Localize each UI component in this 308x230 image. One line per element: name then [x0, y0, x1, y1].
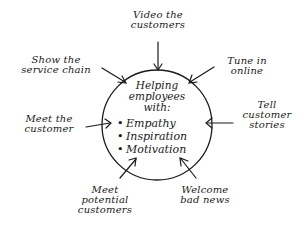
spoke-label-right: Tell customer stories	[234, 100, 300, 130]
bullet-inspiration: Inspiration	[117, 130, 187, 143]
arrow-bottom-right-icon	[180, 158, 196, 178]
spoke-label-left: Meet the customer	[14, 114, 84, 134]
spoke-label-bottom-right: Welcome bad news	[170, 185, 240, 205]
arrow-right-icon	[206, 118, 233, 128]
bullet-motivation: Motivation	[117, 143, 187, 156]
center-title: Helping employees with:	[112, 80, 202, 113]
bullet-empathy: Empathy	[117, 117, 187, 130]
spoke-label-top: Video the customers	[120, 10, 196, 30]
spoke-label-top-right: Tune in online	[214, 56, 280, 76]
center-bullet-list: Empathy Inspiration Motivation	[117, 117, 187, 156]
arrow-top-icon	[154, 42, 162, 70]
spoke-label-top-left: Show the service chain	[12, 55, 100, 75]
spoke-label-bottom-left: Meet potential customers	[70, 185, 140, 215]
arrow-left-icon	[86, 119, 111, 128]
